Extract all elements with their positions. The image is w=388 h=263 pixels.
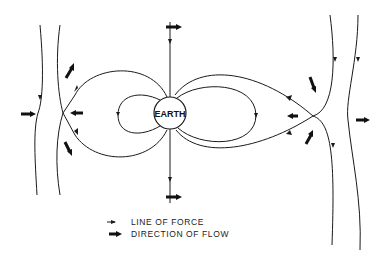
text-layer: EARTH LINE OF FORCE DIRECTION OF FLOW: [0, 0, 388, 263]
legend-line-of-force-label: LINE OF FORCE: [131, 217, 204, 227]
legend-flow-label: DIRECTION OF FLOW: [131, 229, 229, 239]
earth-label: EARTH: [155, 109, 186, 119]
magnetosphere-diagram: EARTH LINE OF FORCE DIRECTION OF FLOW: [0, 0, 388, 263]
